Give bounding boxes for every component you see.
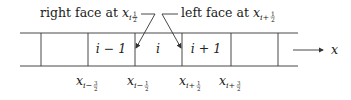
svg-text:xi−: xi− (127, 73, 143, 90)
cell-label-i: i (156, 41, 160, 56)
svg-text:2: 2 (237, 86, 241, 92)
annotation-left-face: left face at xi+ 1 2 (181, 5, 275, 23)
cell-label-i-minus-1: i − 1 (96, 41, 126, 56)
face-label-i-minus-3-2: xi− 3 2 (76, 73, 98, 92)
svg-text:xi+: xi+ (179, 73, 195, 90)
cell-label-i-plus-1: i + 1 (191, 41, 221, 56)
face-label-i-plus-3-2: xi+ 3 2 (219, 73, 241, 92)
svg-text:2: 2 (145, 86, 149, 92)
svg-text:2: 2 (197, 86, 201, 92)
svg-text:xi+: xi+ (219, 73, 235, 90)
leader-right-face (136, 14, 155, 48)
face-label-i-plus-1-2: xi+ 1 2 (179, 73, 201, 92)
face-label-i-minus-1-2: xi− 1 2 (127, 73, 149, 92)
svg-text:xi−: xi− (76, 73, 92, 90)
leader-left-face (162, 14, 181, 48)
svg-text:right face at xi−: right face at xi− (40, 5, 138, 22)
x-axis-arrow: x (293, 42, 338, 57)
finite-volume-diagram: right face at xi− 1 2 left face at xi+ 1… (0, 0, 351, 100)
annotation-right-face: right face at xi− 1 2 (40, 5, 138, 23)
x-axis-label: x (331, 42, 338, 57)
svg-text:2: 2 (271, 16, 275, 23)
svg-text:left face at xi+: left face at xi+ (181, 5, 269, 22)
svg-text:2: 2 (133, 16, 137, 23)
svg-text:2: 2 (94, 86, 98, 92)
